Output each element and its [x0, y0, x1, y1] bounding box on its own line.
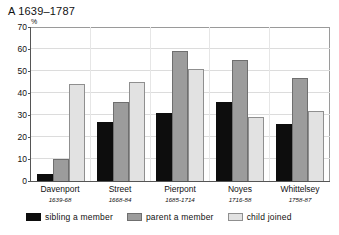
y-tick-label: 20 [18, 132, 27, 142]
bar [97, 122, 113, 181]
x-axis-category-name: Street [90, 184, 150, 194]
bar [188, 69, 204, 181]
bar-groups [31, 27, 330, 181]
x-axis-category-daterange: 1639-68 [30, 196, 90, 203]
x-axis-label-cell: Pierpont1685-1714 [150, 184, 210, 203]
bar [216, 102, 232, 181]
legend-label: child joined [247, 212, 292, 222]
bar [69, 84, 85, 181]
bar [53, 159, 69, 181]
bar [308, 111, 324, 181]
x-axis-category-daterange: 1758-87 [270, 196, 330, 203]
y-tick-mark [28, 181, 31, 182]
y-tick-label: 50 [18, 66, 27, 76]
x-axis-category-name: Whittelsey [270, 184, 330, 194]
x-axis-category-daterange: 1668-84 [90, 196, 150, 203]
plot-area: 010203040506070 [30, 27, 330, 182]
bar-group [151, 27, 211, 181]
legend-label: parent a member [146, 212, 214, 222]
x-axis-label-cell: Davenport1639-68 [30, 184, 90, 203]
x-axis-category-daterange: 1685-1714 [150, 196, 210, 203]
bar [37, 174, 53, 181]
y-axis-unit-label: % [31, 18, 37, 25]
chart-title: A 1639–1787 [8, 5, 75, 17]
bar [129, 82, 145, 181]
x-axis-category-daterange: 1716-58 [210, 196, 270, 203]
legend-swatch [228, 213, 243, 221]
y-tick-label: 30 [18, 110, 27, 120]
legend-item: child joined [228, 212, 292, 222]
bar [113, 102, 129, 181]
x-axis-labels: Davenport1639-68Street1668-84Pierpont168… [30, 184, 330, 203]
bar-group [270, 27, 330, 181]
chart-legend: sibling a memberparent a memberchild joi… [26, 212, 292, 222]
bar [172, 51, 188, 181]
bar [292, 78, 308, 181]
bar [156, 113, 172, 181]
y-tick-label: 0 [22, 176, 27, 186]
y-tick-label: 40 [18, 88, 27, 98]
x-axis-category-name: Pierpont [150, 184, 210, 194]
legend-swatch [26, 213, 41, 221]
x-axis-label-cell: Noyes1716-58 [210, 184, 270, 203]
y-tick-label: 10 [18, 154, 27, 164]
chart-figure: A 1639–1787 % 010203040506070 Davenport1… [0, 0, 339, 235]
bar [276, 124, 292, 181]
x-axis-label-cell: Street1668-84 [90, 184, 150, 203]
bar-group [91, 27, 151, 181]
x-axis-category-name: Davenport [30, 184, 90, 194]
bar [232, 60, 248, 181]
x-axis-category-name: Noyes [210, 184, 270, 194]
bar [248, 117, 264, 181]
legend-label: sibling a member [45, 212, 113, 222]
legend-item: parent a member [127, 212, 214, 222]
legend-item: sibling a member [26, 212, 113, 222]
y-tick-label: 70 [18, 22, 27, 32]
x-axis-label-cell: Whittelsey1758-87 [270, 184, 330, 203]
bar-group [210, 27, 270, 181]
y-tick-label: 60 [18, 44, 27, 54]
legend-swatch [127, 213, 142, 221]
bar-group [31, 27, 91, 181]
